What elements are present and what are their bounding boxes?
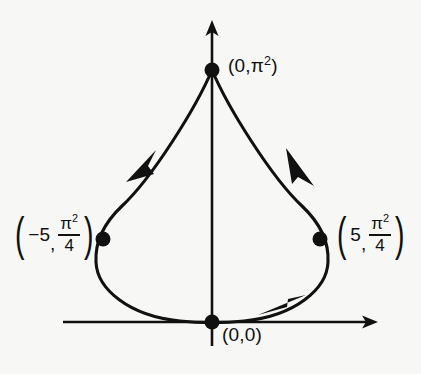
left-label-open-paren: ( [15,217,25,253]
right-label-comma: , [361,234,368,255]
top-label-pi-symbol: π [251,55,264,76]
origin-point-dot [205,315,220,330]
right-label-exponent: 2 [383,212,389,224]
left-label-denominator: 4 [62,237,75,255]
right-label-numerator: π2 [369,215,391,233]
left-point-label: ( −5, π2 4 ) [12,215,96,255]
top-label-close-paren: ) [271,55,278,76]
right-label-denominator: 4 [373,237,386,255]
right-label-fraction: π2 4 [369,215,391,255]
left-label-body: −5, π2 4 [27,215,81,255]
left-label-pi-symbol: π [60,214,72,233]
right-label-pi-symbol: π [371,214,383,233]
right-label-open-paren: ( [337,217,347,253]
arrow-upper-left-icon [126,150,156,182]
left-label-comma: , [50,234,57,255]
right-label-x-value: 5 [350,225,361,244]
left-label-numerator: π2 [58,215,80,233]
top-label-x-value: 0 [235,55,246,76]
left-label-x-value: −5 [28,225,50,244]
top-cusp-point-dot [205,63,220,78]
left-label-fraction: π2 4 [58,215,80,255]
axes-group [63,20,378,346]
origin-point-label: (0,0) [222,325,262,344]
right-point-dot [313,232,328,247]
parametric-curve-figure [0,0,421,374]
right-point-label: ( 5, π2 4 ) [334,215,407,255]
left-label-exponent: 2 [72,212,78,224]
direction-arrows-group [126,148,314,315]
arrow-upper-right-icon [286,148,314,186]
left-label-close-paren: ) [84,217,94,253]
top-point-label: (0,π2) [228,56,278,75]
right-label-body: 5, π2 4 [349,215,392,255]
right-label-close-paren: ) [395,217,405,253]
left-point-dot [96,232,111,247]
